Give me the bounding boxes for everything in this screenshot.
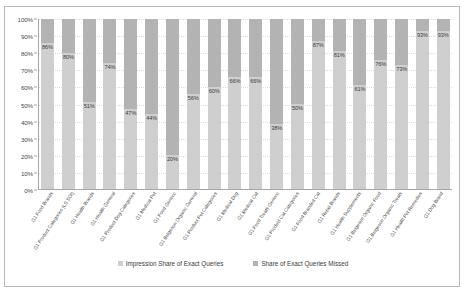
bar-segment-impression-share: 74% <box>103 63 116 189</box>
x-axis-category-label: G1 Dog Brand <box>423 191 444 219</box>
y-axis-tick-mark <box>34 53 37 54</box>
legend-label: Share of Exact Queries Missed <box>261 260 348 267</box>
bar-segment-impression-share: 56% <box>187 94 200 189</box>
bar-segment-share-missed <box>374 19 387 60</box>
bar-data-label: 20% <box>167 156 178 162</box>
y-axis-tick-label: 0% <box>24 187 33 194</box>
bar-column[interactable]: 20% <box>166 19 179 189</box>
bar-segment-impression-share: 73% <box>395 65 408 189</box>
y-axis-tick-label: 20% <box>21 152 33 159</box>
bar-segment-share-missed <box>62 19 75 53</box>
plot-area: 86%80%51%74%47%44%20%56%60%66%66%38%50%8… <box>38 19 452 190</box>
y-axis-tick-mark <box>34 104 37 105</box>
bar-segment-impression-share: 51% <box>83 102 96 189</box>
x-axis-category-label: G1 Belgeson Organic General <box>158 191 198 247</box>
legend-item[interactable]: Share of Exact Queries Missed <box>253 260 348 267</box>
y-axis-tick-label: 90% <box>21 33 33 40</box>
bar-segment-impression-share: 44% <box>145 114 158 189</box>
bar-segment-share-missed <box>437 19 450 31</box>
bar-column[interactable]: 66% <box>228 19 241 189</box>
bar-column[interactable]: 76% <box>374 19 387 189</box>
bar-segment-share-missed <box>333 19 346 51</box>
bar-column[interactable]: 74% <box>103 19 116 189</box>
bar-segment-share-missed <box>270 19 283 124</box>
bar-data-label: 74% <box>105 64 116 70</box>
x-axis-category-label: G1 Medical Dog <box>216 191 239 222</box>
bar-data-label: 51% <box>84 103 95 109</box>
y-axis-tick-mark <box>34 190 37 191</box>
bar-segment-share-missed <box>395 19 408 65</box>
y-axis-tick-label: 40% <box>21 118 33 125</box>
bar-column[interactable]: 56% <box>187 19 200 189</box>
bar-column[interactable]: 44% <box>145 19 158 189</box>
bar-column[interactable]: 66% <box>249 19 262 189</box>
legend-item[interactable]: Impression Share of Exact Queries <box>118 260 224 267</box>
y-axis-tick-mark <box>34 70 37 71</box>
bar-segment-share-missed <box>41 19 54 43</box>
bar-segment-share-missed <box>83 19 96 102</box>
bar-data-label: 93% <box>438 32 449 38</box>
bar-column[interactable]: 38% <box>270 19 283 189</box>
bar-column[interactable]: 73% <box>395 19 408 189</box>
y-axis-tick-label: 60% <box>21 84 33 91</box>
y-axis-tick-mark <box>34 19 37 20</box>
bar-data-label: 86% <box>42 44 53 50</box>
bar-segment-impression-share: 47% <box>124 109 137 189</box>
bar-segment-share-missed <box>145 19 158 114</box>
bar-segment-share-missed <box>249 19 262 77</box>
bar-column[interactable]: 50% <box>291 19 304 189</box>
bar-segment-impression-share: 93% <box>437 31 450 189</box>
bar-column[interactable]: 93% <box>437 19 450 189</box>
y-axis-tick-label: 50% <box>21 101 33 108</box>
bar-segment-impression-share: 61% <box>353 85 366 189</box>
bar-column[interactable]: 60% <box>208 19 221 189</box>
bar-data-label: 66% <box>250 78 261 84</box>
bar-data-label: 44% <box>146 115 157 121</box>
bar-column[interactable]: 87% <box>312 19 325 189</box>
bar-segment-share-missed <box>312 19 325 41</box>
x-axis-category-label: G1 Medical Cat <box>237 191 260 221</box>
bar-segment-impression-share: 66% <box>249 77 262 189</box>
bar-column[interactable]: 93% <box>416 19 429 189</box>
bar-column[interactable]: 86% <box>41 19 54 189</box>
y-axis-tick-label: 70% <box>21 67 33 74</box>
bar-segment-share-missed <box>353 19 366 85</box>
x-axis-category-label: G1 Belgeson Organic Treats <box>365 191 403 244</box>
bar-segment-impression-share: 66% <box>228 77 241 189</box>
bar-column[interactable]: 80% <box>62 19 75 189</box>
y-axis-tick-mark <box>34 36 37 37</box>
y-axis-tick-mark <box>34 155 37 156</box>
bar-data-label: 93% <box>417 32 428 38</box>
y-axis-tick-label: 30% <box>21 135 33 142</box>
y-axis-tick-label: 100% <box>18 16 33 23</box>
x-axis-category-label: G1 Product Dog Categories <box>99 191 136 243</box>
bar-column[interactable]: 47% <box>124 19 137 189</box>
x-axis-category-label: G1 Product Categories (LS SOI) <box>32 191 75 251</box>
bar-segment-impression-share: 80% <box>62 53 75 189</box>
bar-segment-impression-share: 20% <box>166 155 179 189</box>
bar-data-label: 73% <box>396 66 407 72</box>
legend-label: Impression Share of Exact Queries <box>126 260 224 267</box>
bar-segment-impression-share: 50% <box>291 104 304 189</box>
bar-data-label: 56% <box>188 95 199 101</box>
bar-data-label: 50% <box>292 105 303 111</box>
bar-segment-share-missed <box>166 19 179 155</box>
bar-segment-impression-share: 76% <box>374 60 387 189</box>
legend-swatch-icon <box>118 261 123 266</box>
bar-column[interactable]: 81% <box>333 19 346 189</box>
bar-segment-impression-share: 60% <box>208 87 221 189</box>
bar-segment-impression-share: 87% <box>312 41 325 189</box>
bar-data-label: 66% <box>230 78 241 84</box>
bar-data-label: 38% <box>271 125 282 131</box>
bar-segment-impression-share: 93% <box>416 31 429 189</box>
bar-data-label: 80% <box>63 54 74 60</box>
bar-segment-share-missed <box>208 19 221 87</box>
bar-data-label: 87% <box>313 42 324 48</box>
y-axis: 100%90%80%70%60%50%40%30%20%10%0% <box>5 19 37 191</box>
bar-data-label: 47% <box>125 110 136 116</box>
bar-segment-share-missed <box>416 19 429 31</box>
bar-segment-share-missed <box>187 19 200 94</box>
bar-column[interactable]: 61% <box>353 19 366 189</box>
bar-segment-share-missed <box>124 19 137 109</box>
bar-column[interactable]: 51% <box>83 19 96 189</box>
